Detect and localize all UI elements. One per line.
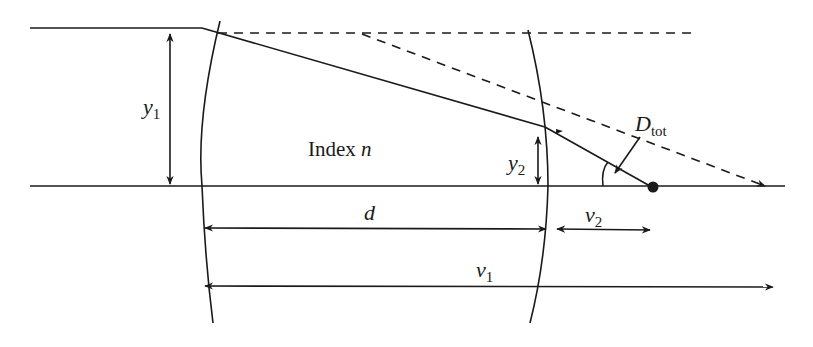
label-y1: y1 [143,96,160,118]
label-v2: v2 [585,204,602,226]
dashed-first-surface-ray [362,34,765,186]
thick-lens-diagram [0,0,813,347]
ray-inside-lens [202,28,545,127]
label-dtot: Dtot [635,113,667,135]
v1-dimension-arrow [205,286,773,287]
label-d: d [364,202,375,224]
label-v1: v1 [476,259,493,281]
d-dimension-arrow [205,228,546,229]
ray-direction-marker [556,129,563,134]
label-index-n: Index n [308,139,372,160]
dtot-pointer-arrow [615,137,640,173]
dtot-angle-arc [603,162,608,186]
v2-dimension-arrow [557,229,650,230]
lens-surface-left [201,21,220,323]
label-y2: y2 [508,152,525,174]
focal-point [648,182,659,193]
